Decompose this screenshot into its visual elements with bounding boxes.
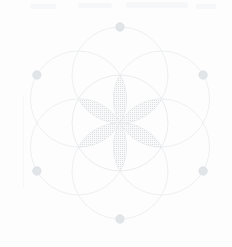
- node-lower-left: [33, 167, 41, 175]
- scan-smudge-1: [78, 3, 112, 8]
- figure-canvas: Seed of Life Flower of Life sacred geome…: [0, 0, 232, 247]
- node-top: [116, 23, 124, 31]
- node-lower-right: [199, 167, 207, 175]
- seed-of-life-diagram: [0, 0, 232, 247]
- scan-smudge-2: [126, 2, 188, 8]
- node-upper-left: [33, 71, 41, 79]
- node-upper-right: [199, 71, 207, 79]
- scan-vertical-line: [23, 96, 24, 188]
- scan-smudge-3: [196, 4, 216, 9]
- node-bottom: [116, 215, 124, 223]
- scan-smudge-0: [30, 4, 56, 9]
